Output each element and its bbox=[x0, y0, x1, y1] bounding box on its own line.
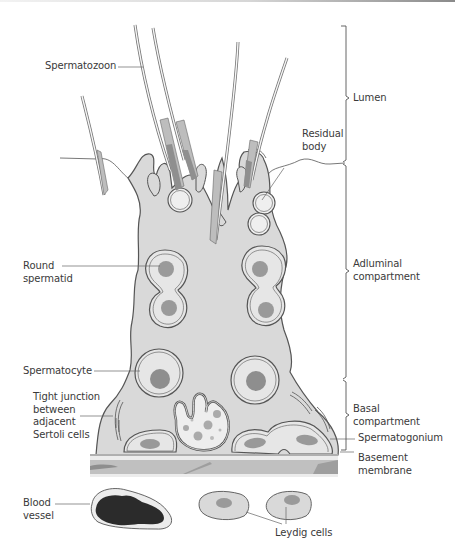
compartment-brackets bbox=[341, 26, 349, 450]
bracket-label-adluminal: Adluminal compartment bbox=[353, 258, 420, 283]
bracket-label-lumen: Lumen bbox=[353, 92, 386, 105]
label-tight-junction: Tight junction between adjacent Sertoli … bbox=[33, 391, 100, 441]
label-spermatogonium: Spermatogonium bbox=[358, 432, 443, 445]
lumen-surface-right bbox=[267, 159, 345, 176]
label-basement-membrane: Basement membrane bbox=[358, 452, 412, 477]
label-leydig-cells: Leydig cells bbox=[275, 527, 332, 540]
label-spermatozoon: Spermatozoon bbox=[45, 60, 116, 73]
label-residual-body: Residual body bbox=[302, 128, 343, 153]
lumen-surface-left bbox=[60, 158, 128, 178]
residual-body-cell bbox=[253, 192, 275, 214]
blood-vessel bbox=[91, 489, 171, 530]
label-blood-vessel: Blood vessel bbox=[23, 497, 54, 522]
label-spermatocyte: Spermatocyte bbox=[23, 365, 92, 378]
bracket-label-basal: Basal compartment bbox=[353, 403, 420, 428]
bracket-adluminal bbox=[343, 164, 349, 379]
bracket-basal bbox=[341, 380, 349, 450]
basement-membrane bbox=[90, 454, 338, 477]
label-round-spermatid: Round spermatid bbox=[23, 260, 73, 285]
